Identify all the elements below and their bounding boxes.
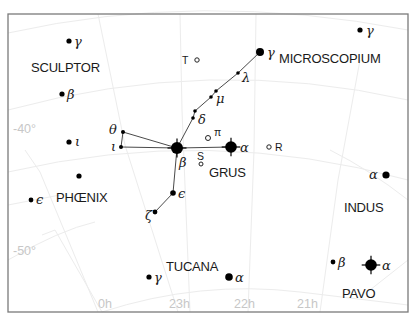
variable-star-label: R: [275, 141, 283, 153]
grid-line: [8, 195, 60, 205]
star-greek-label: α: [235, 270, 244, 285]
variable-star-circle: [267, 145, 271, 149]
star-ind-alpha: α: [369, 167, 390, 182]
star-greek-label: β: [66, 87, 75, 102]
star-greek-label: γ: [154, 270, 162, 285]
star-dot: [191, 116, 195, 120]
star-scl-gamma: γ: [66, 34, 82, 49]
constellation-name-sculptor: SCULPTOR: [31, 60, 100, 75]
star-greek-label: γ: [366, 23, 374, 38]
star-dot: [331, 260, 336, 265]
star-dot: [193, 109, 197, 113]
constellation-name-grus: GRUS: [209, 165, 246, 180]
star-greek-label: ι: [111, 139, 116, 154]
axis-label: -50°: [13, 244, 36, 258]
star-phe-epsilon: ϵ: [29, 192, 44, 207]
variable-star-circle: [206, 136, 211, 141]
star-gru-epsilon: ϵ: [170, 186, 186, 201]
constellation-line: [216, 73, 238, 91]
star-gru-iota: ι: [111, 139, 123, 154]
variable-star-label: π: [214, 126, 221, 138]
star-gru-mu2: μ: [209, 91, 224, 106]
variable-star-label: S: [197, 150, 204, 162]
star-pav-alpha: α: [362, 256, 391, 275]
star-dot: [365, 259, 377, 271]
var-R: R: [267, 141, 283, 153]
star-dot: [225, 141, 237, 153]
variable-star-label: T: [182, 54, 189, 66]
constellation-name-tucana: TUCANA: [166, 259, 219, 274]
star-chart: -40°-50°0h23h22h21h γβιϵθιβαδμλγϵζγαγαβα…: [0, 0, 412, 325]
axis-label: 21h: [297, 297, 318, 311]
star-dot: [59, 91, 64, 96]
star-mic-gamma: γ: [357, 23, 374, 38]
star-dot: [66, 38, 71, 43]
star-gru-lambda: λ: [236, 70, 250, 85]
star-dot: [66, 139, 71, 144]
star-dot: [146, 274, 151, 279]
star-greek-label: δ: [198, 112, 206, 127]
constellation-line: [155, 193, 173, 212]
star-tuc-alpha: α: [225, 270, 244, 285]
grid-line: [25, 150, 98, 312]
star-pav-beta: β: [331, 255, 346, 270]
star-gru-delta2: δ: [191, 112, 206, 127]
star-scl-beta: β: [59, 87, 74, 102]
star-greek-label: μ: [216, 91, 224, 106]
star-dot: [170, 190, 176, 196]
axis-label: 23h: [169, 297, 190, 311]
grid-line: [8, 150, 408, 180]
constellation-line: [195, 97, 211, 111]
star-greek-label: ζ: [145, 208, 153, 223]
star-greek-label: λ: [241, 70, 250, 85]
star-dot: [76, 173, 81, 178]
star-dot: [209, 95, 213, 99]
star-greek-label: α: [240, 140, 249, 155]
star-phe-iota: ι: [66, 134, 80, 149]
constellation-lines: [121, 52, 260, 212]
star-greek-label: β: [178, 155, 187, 170]
axis-label: 22h: [234, 297, 255, 311]
axis-label: -40°: [13, 122, 36, 136]
star-dot: [153, 210, 158, 215]
star-greek-label: ϵ: [178, 186, 186, 201]
var-T: T: [182, 54, 199, 66]
star-tuc-gamma: γ: [146, 270, 162, 285]
star-greek-label: α: [369, 167, 378, 182]
constellation-name-indus: INDUS: [344, 200, 384, 215]
star-dot: [382, 171, 389, 178]
grid-line: [320, 60, 360, 312]
constellation-name-phœnix: PHŒNIX: [56, 190, 108, 205]
star-gru-alpha: α: [222, 138, 249, 157]
star-greek-label: γ: [267, 45, 275, 60]
star-dot: [29, 198, 34, 203]
star-greek-label: ϵ: [36, 192, 44, 207]
variable-star-circle: [199, 162, 203, 166]
star-greek-label: β: [337, 255, 346, 270]
variable-star-circle: [195, 58, 199, 62]
star-greek-label: θ: [109, 122, 117, 137]
axis-label: 0h: [98, 297, 112, 311]
star-dot: [357, 27, 362, 32]
star-greek-label: ι: [75, 134, 80, 149]
constellation-line: [123, 132, 177, 148]
constellation-name-pavo: PAVO: [342, 286, 375, 301]
grid-line: [248, 14, 256, 312]
var-pi: π: [206, 126, 222, 141]
star-greek-label: γ: [74, 34, 82, 49]
constellation-line: [121, 132, 123, 147]
star-dot: [171, 142, 183, 154]
star-dot: [121, 130, 125, 134]
constellation-name-microscopium: MICROSCOPIUM: [279, 51, 381, 66]
star-greek-label: α: [382, 258, 391, 273]
star-gru-delta1: [193, 109, 197, 113]
constellation-labels: SCULPTORMICROSCOPIUMPHŒNIXGRUSINDUSTUCAN…: [31, 51, 384, 301]
star-dot: [256, 48, 264, 56]
star-phe-unlabeled: [76, 173, 81, 178]
var-S: S: [197, 150, 204, 166]
star-dot: [225, 273, 233, 281]
star-dot: [119, 145, 123, 149]
star-dot: [236, 71, 240, 75]
star-gru-zeta: ζ: [145, 208, 157, 223]
star-gru-gamma: γ: [256, 45, 275, 60]
